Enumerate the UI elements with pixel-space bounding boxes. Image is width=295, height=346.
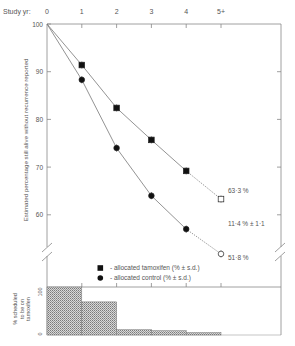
data-point-circle (149, 193, 155, 199)
bar-y-axis-label: to be on (19, 299, 25, 319)
x-tick-label: 4 (184, 8, 188, 15)
bar (117, 330, 152, 335)
bar-panel: 1000% scheduledto be ontamoxifen (12, 283, 281, 336)
x-tick-label: 1 (80, 8, 84, 15)
legend-square-icon (98, 265, 104, 271)
x-tick-label: 5+ (217, 8, 225, 15)
x-axis-label: Study yr: (3, 8, 31, 16)
legend-label: - allocated control (% ± s.d.) (110, 274, 191, 282)
annotation-label: 51·8 % (228, 254, 249, 261)
plot-series (47, 24, 224, 257)
data-point-square (149, 137, 155, 143)
data-point-square (218, 196, 224, 202)
series-control (47, 24, 224, 257)
data-point-circle (218, 251, 224, 257)
y-axis-label: Estimated percentage still alive without… (22, 58, 29, 221)
bar (186, 333, 221, 335)
x-tick-label: 2 (115, 8, 119, 15)
annotation-label: 63·3 % (228, 187, 249, 194)
data-point-circle (114, 145, 120, 151)
data-point-square (79, 62, 85, 68)
legend-label: - allocated tamoxifen (% ± s.d.) (110, 264, 200, 272)
y-tick-label: 90 (36, 68, 44, 75)
bar-y-axis-label: % scheduled (12, 293, 18, 325)
y-tick-label: 60 (36, 211, 44, 218)
x-tick-label: 0 (45, 8, 49, 15)
data-point-circle (183, 226, 189, 232)
survival-chart: 012345+ 60708090100 63·3 %11·4 % ± 1·151… (0, 0, 295, 346)
annotations: 63·3 %11·4 % ± 1·151·8 % (228, 187, 265, 261)
bar (82, 302, 117, 335)
x-axis-top: 012345+ (45, 8, 281, 28)
bar (47, 287, 82, 335)
y-tick-label: 80 (36, 116, 44, 123)
bar (151, 331, 186, 335)
bar-y-axis-label: tamoxifen (25, 297, 31, 321)
y-tick-label: 70 (36, 164, 44, 171)
legend: - allocated tamoxifen (% ± s.d.)- alloca… (98, 264, 200, 282)
y-axis-right (275, 24, 285, 335)
legend-circle-icon (98, 275, 104, 281)
y-tick-label: 100 (32, 21, 43, 28)
data-point-square (183, 168, 189, 174)
bar-y-tick-100: 100 (37, 287, 43, 296)
x-tick-label: 3 (149, 8, 153, 15)
series-tamoxifen (47, 24, 224, 203)
data-point-square (114, 105, 120, 111)
data-point-circle (79, 77, 85, 83)
bar-y-tick-0: 0 (37, 332, 43, 335)
annotation-label: 11·4 % ± 1·1 (228, 220, 265, 227)
